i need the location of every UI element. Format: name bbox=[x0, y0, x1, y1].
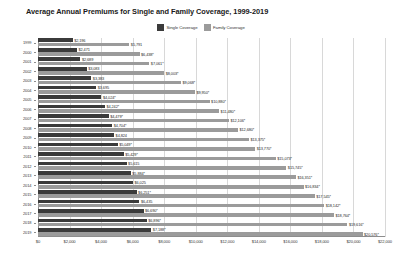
bar-family[interactable] bbox=[38, 43, 129, 47]
bar-single[interactable] bbox=[38, 124, 112, 128]
y-axis-tick bbox=[34, 156, 36, 157]
y-axis-tick bbox=[34, 223, 36, 224]
bar-family[interactable] bbox=[38, 185, 304, 189]
y-axis-tick bbox=[34, 90, 36, 91]
bar-family[interactable] bbox=[38, 128, 238, 132]
bar-value-label: $16,834* bbox=[305, 184, 320, 189]
y-axis-tick bbox=[34, 81, 36, 82]
y-axis-tick-label: 2012 bbox=[23, 164, 32, 169]
x-axis-tick-label: $14,000 bbox=[252, 239, 266, 244]
bar-family[interactable] bbox=[38, 194, 315, 198]
bar-single[interactable] bbox=[38, 48, 77, 52]
y-axis-tick bbox=[34, 52, 36, 53]
bar-family[interactable] bbox=[38, 166, 286, 170]
bar-family[interactable] bbox=[38, 109, 219, 113]
bar-single[interactable] bbox=[38, 38, 73, 42]
bar-row: $3,383$9,068* bbox=[38, 76, 385, 85]
y-axis-tick-label: 2014 bbox=[23, 183, 32, 188]
bar-row: $4,479*$12,106* bbox=[38, 114, 385, 123]
bar-single[interactable] bbox=[38, 152, 124, 156]
bar-row: $5,429*$15,073* bbox=[38, 152, 385, 161]
y-axis-tick bbox=[34, 62, 36, 63]
bar-row: $3,695$9,950* bbox=[38, 86, 385, 95]
gridline bbox=[385, 38, 386, 237]
bar-single[interactable] bbox=[38, 190, 137, 194]
bar-value-label: $18,764* bbox=[335, 213, 350, 218]
x-axis-tick-label: $22,000 bbox=[378, 239, 392, 244]
y-axis-tick-label: 2011 bbox=[23, 154, 31, 159]
bar-single[interactable] bbox=[38, 133, 114, 137]
bar-single[interactable] bbox=[38, 181, 133, 185]
bar-family[interactable] bbox=[38, 213, 334, 217]
bar-single[interactable] bbox=[38, 95, 101, 99]
y-axis-tick-label: 2003 bbox=[23, 78, 32, 83]
bar-family[interactable] bbox=[38, 62, 149, 66]
x-axis-tick-label: $4,000 bbox=[95, 239, 107, 244]
legend-label: Family Coverage bbox=[213, 25, 245, 30]
bar-family[interactable] bbox=[38, 157, 276, 161]
bar-family[interactable] bbox=[38, 232, 363, 236]
bar-single[interactable] bbox=[38, 67, 87, 71]
bar-single[interactable] bbox=[38, 57, 80, 61]
y-axis-tick bbox=[34, 100, 36, 101]
bar-family[interactable] bbox=[38, 90, 195, 94]
y-axis-tick bbox=[34, 232, 36, 233]
bar-family[interactable] bbox=[38, 71, 164, 75]
bar-family[interactable] bbox=[38, 52, 140, 56]
bar-family[interactable] bbox=[38, 147, 255, 151]
bar-row: $6,025$16,834* bbox=[38, 180, 385, 189]
bar-value-label: $12,680* bbox=[239, 127, 254, 132]
x-axis-tick-label: $10,000 bbox=[189, 239, 203, 244]
x-axis-tick-label: $8,000 bbox=[158, 239, 170, 244]
bar-row: $5,049*$13,770* bbox=[38, 142, 385, 151]
bar-family[interactable] bbox=[38, 119, 229, 123]
legend-item[interactable]: Family Coverage bbox=[204, 24, 245, 31]
bar-family[interactable] bbox=[38, 204, 324, 208]
y-axis-tick bbox=[34, 175, 36, 176]
bar-single[interactable] bbox=[38, 171, 131, 175]
bar-single[interactable] bbox=[38, 162, 127, 166]
bar-value-label: $19,616* bbox=[349, 222, 364, 227]
y-axis-tick bbox=[34, 71, 36, 72]
bar-single[interactable] bbox=[38, 200, 139, 204]
bar-row: $6,896*$19,616* bbox=[38, 218, 385, 227]
bar-single[interactable] bbox=[38, 105, 105, 109]
bar-family[interactable] bbox=[38, 81, 181, 85]
y-axis-tick bbox=[34, 166, 36, 167]
legend-item[interactable]: Single Coverage bbox=[157, 24, 198, 31]
chart-title: Average Annual Premiums for Single and F… bbox=[26, 7, 268, 16]
y-axis-tick bbox=[34, 194, 36, 195]
bar-single[interactable] bbox=[38, 114, 109, 118]
bar-single[interactable] bbox=[38, 86, 96, 90]
bar-value-label: $13,375* bbox=[250, 137, 265, 142]
y-axis-tick-label: 2000 bbox=[23, 50, 32, 55]
bar-family[interactable] bbox=[38, 138, 249, 142]
chart-legend: Single CoverageFamily Coverage bbox=[157, 24, 245, 31]
bar-single[interactable] bbox=[38, 76, 91, 80]
bar-value-label: $6,438* bbox=[141, 52, 154, 57]
y-axis-tick-label: 2002 bbox=[23, 69, 32, 74]
bar-value-label: $5,791 bbox=[131, 42, 142, 47]
y-axis-tick-label: 2016 bbox=[23, 202, 32, 207]
y-axis-tick-label: 2008 bbox=[23, 126, 32, 131]
bar-family[interactable] bbox=[38, 175, 296, 179]
y-axis-tick-label: 2018 bbox=[23, 220, 32, 225]
bar-rows: $2,196$5,791$2,471$6,438*$2,689$7,061*$3… bbox=[38, 38, 385, 237]
bar-family[interactable] bbox=[38, 223, 347, 227]
bar-value-label: $9,950* bbox=[196, 90, 209, 95]
y-axis-tick-label: 2005 bbox=[23, 97, 32, 102]
bar-row: $2,471$6,438* bbox=[38, 48, 385, 57]
bar-single[interactable] bbox=[38, 143, 118, 147]
y-axis-tick bbox=[34, 128, 36, 129]
bar-family[interactable] bbox=[38, 100, 210, 104]
y-axis-tick-label: 2001 bbox=[23, 59, 32, 64]
y-axis-tick bbox=[34, 147, 36, 148]
chart-container: Average Annual Premiums for Single and F… bbox=[0, 0, 406, 262]
bar-row: $7,188*$20,576* bbox=[38, 228, 385, 237]
x-axis-tick-label: $2,000 bbox=[64, 239, 76, 244]
y-axis-tick-label: 2015 bbox=[23, 192, 32, 197]
legend-label: Single Coverage bbox=[167, 25, 198, 30]
bar-single[interactable] bbox=[38, 209, 144, 213]
bar-single[interactable] bbox=[38, 228, 151, 232]
bar-single[interactable] bbox=[38, 219, 147, 223]
